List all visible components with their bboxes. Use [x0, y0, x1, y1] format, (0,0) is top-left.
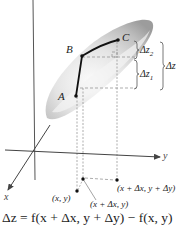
label-x-plus-dx-y-plus-dy: (x + Δx, y + Δy) [117, 184, 175, 193]
label-y-axis: y [163, 151, 167, 161]
label-dz2: Δz2 [140, 45, 153, 58]
label-c: C [122, 32, 129, 43]
point-c [116, 38, 120, 42]
y-axis [5, 150, 160, 157]
label-dz2-text: Δz [140, 44, 150, 55]
diagram-canvas [0, 0, 189, 230]
label-dz2-sub: 2 [150, 50, 154, 58]
label-dz-total: Δz [166, 61, 176, 71]
surface-increment-figure: A B C Δz2 Δz1 Δz y x (x, y) (x + Δx, y) … [0, 0, 189, 230]
domain-points [75, 177, 118, 200]
label-b: B [66, 44, 73, 55]
label-x-axis: x [4, 192, 8, 202]
label-x-plus-dx-y: (x + Δx, y) [90, 200, 128, 209]
label-dz1-sub: 1 [150, 74, 154, 82]
point-x-plus-dx-y [81, 177, 84, 180]
increment-formula: Δz = f(x + Δx, y + Δy) − f(x, y) [2, 210, 172, 226]
point-x-plus-dx-y-plus-dy [115, 178, 118, 181]
label-dz1: Δz1 [140, 69, 153, 82]
label-xy: (x, y) [52, 194, 70, 203]
point-xy [75, 189, 78, 192]
label-dz1-text: Δz [140, 68, 150, 79]
z-axis [33, 0, 35, 180]
x-axis [8, 125, 50, 190]
label-a: A [58, 91, 65, 102]
point-b [80, 54, 84, 58]
point-a [74, 94, 78, 98]
